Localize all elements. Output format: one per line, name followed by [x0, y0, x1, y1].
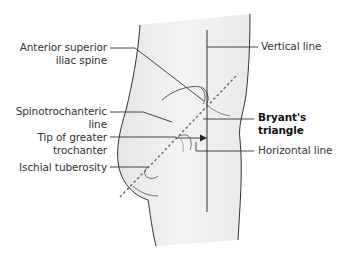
label-ischial-tuberosity: Ischial tuberosity	[19, 161, 107, 174]
label-asis: Anterior superior iliac spine	[20, 41, 107, 67]
label-bryants-triangle: Bryant's triangle	[258, 111, 306, 137]
bryants-triangle-diagram: Anterior superior iliac spine Spinotroch…	[0, 0, 345, 265]
label-vertical-line: Vertical line	[261, 40, 321, 53]
label-horizontal-line: Horizontal line	[258, 144, 332, 157]
label-spinotrochanteric: Spinotrochanteric line	[16, 105, 107, 131]
label-greater-trochanter: Tip of greater trochanter	[37, 131, 107, 157]
